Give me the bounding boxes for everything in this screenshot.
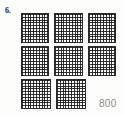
answer-value: 800 — [99, 98, 117, 110]
hundred-flat-block — [88, 13, 116, 43]
grid-lines — [57, 80, 85, 108]
blocks-row — [21, 46, 121, 77]
grid-lines — [55, 14, 81, 42]
grid-lines — [22, 80, 50, 108]
blocks-row — [21, 13, 121, 44]
grid-lines — [22, 47, 48, 75]
base-ten-blocks-area — [21, 13, 121, 111]
problem-number-label: 6. — [5, 6, 11, 16]
hundred-flat-block — [21, 79, 51, 109]
hundred-flat-block — [21, 46, 49, 76]
worksheet-problem: 6. — [0, 0, 124, 115]
grid-lines — [89, 14, 115, 42]
hundred-flat-block — [54, 46, 82, 76]
hundred-flat-block — [21, 13, 49, 43]
grid-lines — [22, 14, 48, 42]
grid-lines — [89, 47, 115, 75]
hundred-flat-block — [56, 79, 86, 109]
grid-lines — [55, 47, 81, 75]
hundred-flat-block — [54, 13, 82, 43]
hundred-flat-block — [88, 46, 116, 76]
